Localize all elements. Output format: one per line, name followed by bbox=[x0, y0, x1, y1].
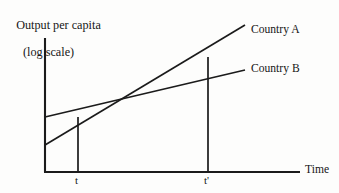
series-label-country-b: Country B bbox=[251, 62, 300, 75]
series-label-country-a: Country A bbox=[251, 23, 300, 36]
series-line-country-b bbox=[45, 70, 245, 117]
x-axis-label: Time bbox=[305, 163, 329, 176]
x-tick-label-t: t bbox=[75, 174, 78, 186]
growth-chart-figure: Output per capita (log scale) Country A … bbox=[0, 0, 339, 193]
x-tick-label-t-prime: t' bbox=[204, 174, 209, 186]
series-line-country-a bbox=[45, 25, 245, 145]
